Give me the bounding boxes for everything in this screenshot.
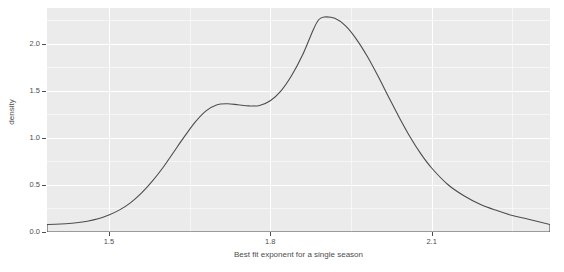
x-axis-tick-label: 1.5 xyxy=(104,238,114,246)
y-axis-title: density xyxy=(8,82,16,142)
y-axis-tick-mark xyxy=(42,91,46,92)
x-axis-title: Best fit exponent for a single season xyxy=(47,250,550,260)
y-axis-tick-mark xyxy=(42,44,46,45)
x-axis-tick-label: 1.8 xyxy=(265,238,275,246)
x-axis-tick-mark xyxy=(432,232,433,236)
y-axis-tick-label: 2.0 xyxy=(10,40,40,48)
x-axis-tick-mark xyxy=(270,232,271,236)
x-axis-tick-mark xyxy=(109,232,110,236)
y-axis-tick-label: 0.0 xyxy=(10,228,40,236)
y-axis-tick-mark xyxy=(42,232,46,233)
density-plot: 0.00.51.01.52.0 density 1.51.82.1 Best f… xyxy=(0,0,564,272)
plot-panel xyxy=(47,8,550,232)
x-axis-tick-label: 2.1 xyxy=(426,238,436,246)
y-axis-tick-mark xyxy=(42,185,46,186)
density-curve-svg xyxy=(47,8,550,232)
density-curve-path xyxy=(47,17,550,232)
y-axis-tick-mark xyxy=(42,138,46,139)
y-axis-tick-label: 0.5 xyxy=(10,181,40,189)
